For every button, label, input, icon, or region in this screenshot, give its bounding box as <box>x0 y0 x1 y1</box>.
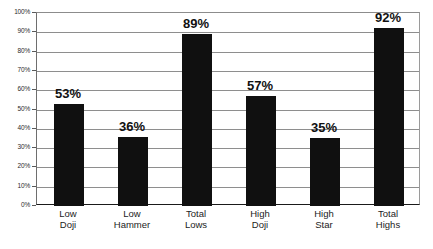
bar <box>310 138 340 206</box>
gridline <box>37 32 419 33</box>
y-axis-tick-label: 50% <box>0 106 30 113</box>
y-axis-tick-label: 70% <box>0 67 30 74</box>
y-axis-tick-label: 80% <box>0 48 30 55</box>
bar <box>246 96 276 206</box>
gridline <box>37 110 419 111</box>
bar-value-label: 35% <box>292 121 356 134</box>
x-axis-category-label-line1: High <box>228 208 292 219</box>
bar <box>54 104 84 206</box>
bar <box>374 28 404 206</box>
x-axis-category-label-line1: Total <box>164 208 228 219</box>
x-axis-category-label-line2: Lows <box>164 219 228 230</box>
x-axis-category-label: LowHammer <box>100 208 164 230</box>
y-axis-tick-label: 30% <box>0 144 30 151</box>
bar <box>118 137 148 206</box>
x-axis-category-label: TotalHighs <box>356 208 420 230</box>
gridline <box>37 129 419 130</box>
bar-chart: 0%10%20%30%40%50%60%70%80%90%100% 53%36%… <box>0 0 433 249</box>
x-axis-category-label-line2: Doji <box>228 219 292 230</box>
x-axis-category-label-line2: Star <box>292 219 356 230</box>
y-axis-tick-label: 10% <box>0 183 30 190</box>
bar-value-label: 36% <box>100 120 164 133</box>
gridline <box>37 148 419 149</box>
y-axis-tick-label: 60% <box>0 86 30 93</box>
x-axis-category-label: HighStar <box>292 208 356 230</box>
x-axis-category-label-line1: Low <box>36 208 100 219</box>
y-axis-tick <box>32 205 36 206</box>
x-axis-category-label-line2: Hammer <box>100 219 164 230</box>
gridline <box>37 167 419 168</box>
bar-value-label: 89% <box>164 17 228 30</box>
bar-value-label: 92% <box>356 11 420 24</box>
gridline <box>37 52 419 53</box>
plot-area <box>36 12 420 205</box>
y-axis-tick-label: 0% <box>0 202 30 209</box>
bar <box>182 34 212 206</box>
y-axis-tick-label: 20% <box>0 163 30 170</box>
y-axis-tick-label: 40% <box>0 125 30 132</box>
gridline <box>37 187 419 188</box>
x-axis-category-label: TotalLows <box>164 208 228 230</box>
x-axis-category-label-line2: Doji <box>36 219 100 230</box>
x-axis-category-label-line2: Highs <box>356 219 420 230</box>
x-axis-category-label: HighDoji <box>228 208 292 230</box>
x-axis-category-label-line1: Low <box>100 208 164 219</box>
x-axis-category-label-line1: Total <box>356 208 420 219</box>
x-axis-category-label-line1: High <box>292 208 356 219</box>
x-axis-category-label: LowDoji <box>36 208 100 230</box>
gridline <box>37 71 419 72</box>
y-axis-tick-label: 100% <box>0 9 30 16</box>
bar-value-label: 53% <box>36 87 100 100</box>
y-axis-tick-label: 90% <box>0 28 30 35</box>
bar-value-label: 57% <box>228 79 292 92</box>
